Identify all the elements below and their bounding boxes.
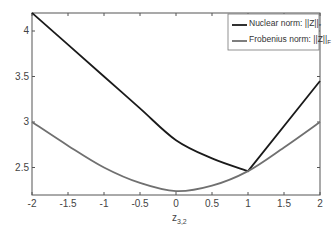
chart: -2-1.5-1-0.500.511.52 2.533.54 Nuclear n… (0, 0, 335, 229)
svg-text:-2: -2 (28, 198, 37, 209)
svg-text:3: 3 (23, 116, 29, 127)
svg-text:1.5: 1.5 (277, 198, 291, 209)
x-axis-label: z3,2 (172, 212, 187, 225)
svg-text:3.5: 3.5 (15, 71, 29, 82)
svg-text:0: 0 (173, 198, 179, 209)
svg-text:0.5: 0.5 (205, 198, 219, 209)
legend-nuclear: Nuclear norm: ||Z||* (249, 18, 322, 29)
svg-text:2.5: 2.5 (15, 162, 29, 173)
legend-frobenius: Frobenius norm: ||Z||F (249, 34, 331, 45)
svg-text:1: 1 (245, 198, 251, 209)
svg-text:2: 2 (317, 198, 323, 209)
svg-text:-1: -1 (100, 198, 109, 209)
svg-text:-1.5: -1.5 (59, 198, 77, 209)
legend: Nuclear norm: ||Z||* Frobenius norm: ||Z… (228, 14, 331, 50)
svg-text:4: 4 (23, 25, 29, 36)
svg-text:-0.5: -0.5 (131, 198, 149, 209)
